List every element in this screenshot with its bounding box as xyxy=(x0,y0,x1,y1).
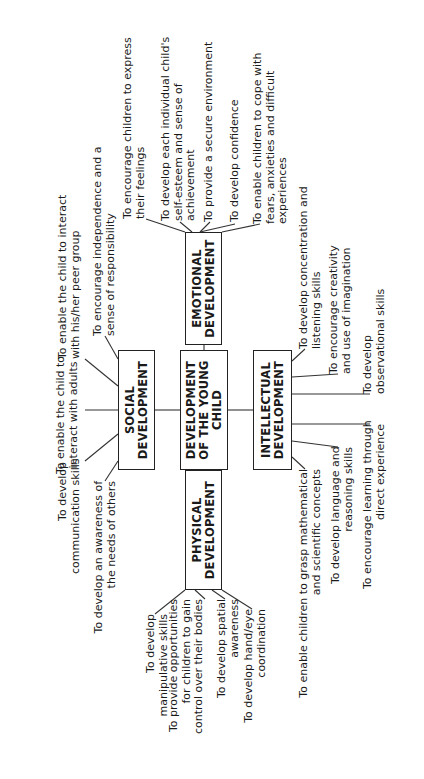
social-item: To enable the child to interact with his… xyxy=(57,195,82,359)
intellectual-item: To develop language and reasoning skills xyxy=(330,447,355,584)
intellectual-item: To encourage learning through direct exp… xyxy=(362,424,387,589)
intellectual-item: To develop concentration and listening s… xyxy=(298,186,323,349)
intellectual-item: To develop observational skills xyxy=(362,289,387,394)
emotional-item: To develop confidence xyxy=(229,99,242,222)
emotional-item: To provide a secure environment xyxy=(203,42,216,222)
physical-item: To develop spatial awareness xyxy=(216,599,241,704)
physical-label: PHYSICAL DEVELOPMENT xyxy=(191,481,217,579)
physical-box: PHYSICAL DEVELOPMENT xyxy=(185,470,222,590)
emotional-box: EMOTIONAL DEVELOPMENT xyxy=(185,232,222,345)
social-box: SOCIAL DEVELOPMENT xyxy=(118,350,155,470)
physical-item: To develop hand/eye coordination xyxy=(243,609,268,724)
intellectual-label: INTELLECTUAL DEVELOPMENT xyxy=(260,361,286,459)
emotional-item: To develop each individual child's self-… xyxy=(160,37,198,221)
emotional-item: To encourage children to express their f… xyxy=(122,37,147,219)
intellectual-item: To enable children to grasp mathematical… xyxy=(298,469,323,699)
social-item: To develop communication skills xyxy=(57,462,82,574)
social-label: SOCIAL DEVELOPMENT xyxy=(124,361,150,459)
social-item: To enable the child to interact with adu… xyxy=(55,356,80,474)
center-box: DEVELOPMENT OF THE YOUNG CHILD xyxy=(180,350,228,470)
mind-map-diagram: DEVELOPMENT OF THE YOUNG CHILD SOCIAL DE… xyxy=(0,0,424,779)
emotional-item: To enable children to cope with fears, a… xyxy=(252,53,290,224)
center-label: DEVELOPMENT OF THE YOUNG CHILD xyxy=(185,360,224,459)
social-item: To develop an awareness of the needs of … xyxy=(93,481,118,651)
physical-item: To provide opportunities for children to… xyxy=(168,599,206,739)
social-item: To encourage independence and a sense of… xyxy=(92,146,117,336)
emotional-label: EMOTIONAL DEVELOPMENT xyxy=(191,239,217,337)
intellectual-box: INTELLECTUAL DEVELOPMENT xyxy=(253,350,292,470)
intellectual-item: To encourage creativity and use of imagi… xyxy=(328,245,353,374)
